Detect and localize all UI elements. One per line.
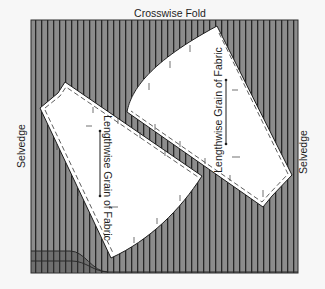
grain-label-lower: Lengthwise Grain of Fabric <box>102 115 114 240</box>
crosswise-fold-label: Crosswise Fold <box>134 7 206 19</box>
pattern-layout-diagram: Lengthwise Grain of Fabric Lengthwise Gr… <box>0 0 325 289</box>
selvedge-right-label: Selvedge <box>297 130 309 174</box>
grain-label-upper: Lengthwise Grain of Fabric <box>212 47 224 172</box>
selvedge-left-label: Selvedge <box>15 124 27 168</box>
